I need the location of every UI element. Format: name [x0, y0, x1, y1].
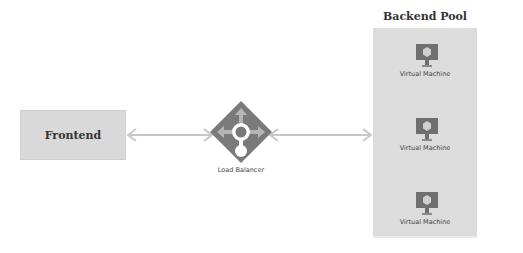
load-balancer-icon	[208, 99, 274, 165]
virtual-machine-label: Virtual Machine	[373, 70, 477, 78]
frontend-label: Frontend	[45, 129, 102, 142]
lb-pool-connector	[270, 129, 371, 141]
virtual-machine-icon	[416, 118, 438, 142]
virtual-machine-node[interactable]: Virtual Machine	[373, 118, 477, 168]
virtual-machine-icon	[416, 192, 438, 216]
frontend-node[interactable]: Frontend	[20, 110, 126, 160]
backend-pool-title: Backend Pool	[373, 10, 477, 23]
virtual-machine-node[interactable]: Virtual Machine	[373, 192, 477, 242]
load-balancer-node[interactable]	[208, 99, 274, 165]
virtual-machine-icon	[416, 44, 438, 68]
virtual-machine-node[interactable]: Virtual Machine	[373, 44, 477, 94]
backend-pool-group[interactable]: Virtual Machine Virtual Machine Virtual …	[373, 28, 477, 238]
virtual-machine-label: Virtual Machine	[373, 218, 477, 226]
virtual-machine-label: Virtual Machine	[373, 144, 477, 152]
frontend-lb-connector	[128, 129, 212, 141]
load-balancer-label: Load Balancer	[207, 166, 275, 174]
